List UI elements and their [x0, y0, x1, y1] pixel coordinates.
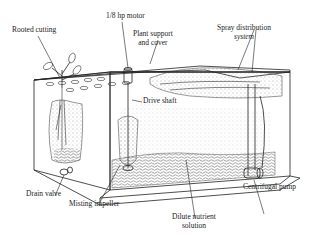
label-motor: 1/8 hp motor	[106, 12, 145, 21]
label-drain-valve: Drain valve	[26, 190, 61, 199]
label-spray-line2: system	[217, 33, 271, 42]
label-nutrient-line2: solution	[172, 222, 216, 231]
plant-support-holes	[46, 77, 130, 91]
label-rooted-cutting: Rooted cutting	[12, 26, 56, 35]
label-drive-shaft: Drive shaft	[143, 97, 177, 106]
drain-valve	[60, 167, 73, 175]
label-spray-distribution: Spray distribution system	[217, 24, 271, 41]
motor-and-shaft	[118, 68, 138, 169]
label-centrifugal-pump: Centrifugal pump	[243, 183, 296, 192]
label-misting-impeller: Misting impeller	[69, 200, 119, 209]
label-plant-support: Plant support and cover	[133, 30, 173, 47]
label-dilute-nutrient: Dilute nutrient solution	[172, 213, 216, 230]
label-plant-support-line2: and cover	[133, 39, 173, 48]
